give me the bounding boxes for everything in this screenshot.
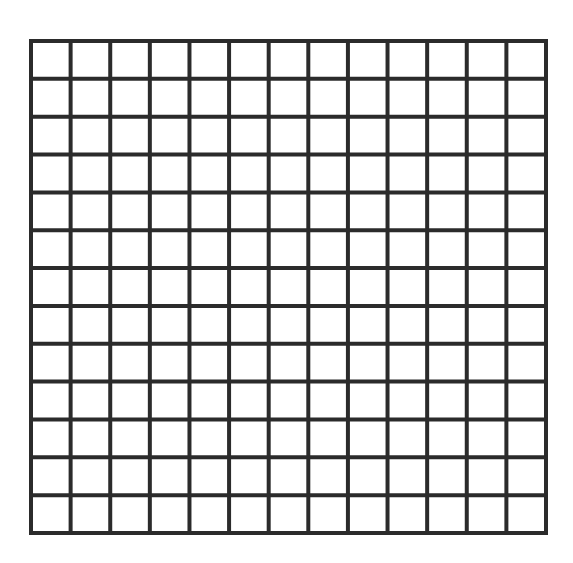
canvas (0, 0, 573, 563)
grid-background (0, 0, 573, 563)
square-grid (0, 0, 573, 563)
